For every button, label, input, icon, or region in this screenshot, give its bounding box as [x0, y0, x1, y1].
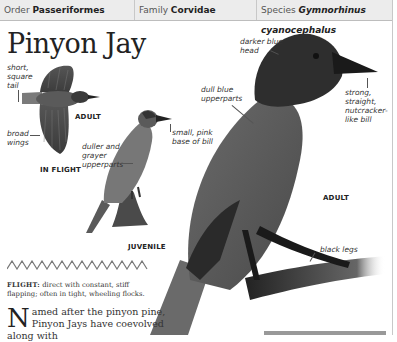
- family-label: Family: [139, 5, 168, 15]
- species-cell: Species Gymnorhinus cyanocephalus: [257, 0, 392, 20]
- order-value: Passeriformes: [32, 5, 104, 15]
- label-short-square-tail: short, square tail: [7, 63, 33, 90]
- label-broad-wings: broad wings: [7, 129, 29, 147]
- label-line: short,: [7, 63, 33, 72]
- label-line: upperparts: [201, 94, 242, 103]
- order-cell: Order Passeriformes: [0, 0, 135, 20]
- species-label: Species: [261, 5, 296, 15]
- label-line: straight,: [345, 97, 388, 106]
- label-line: like bill: [345, 115, 388, 124]
- label-line: upperparts: [82, 160, 123, 169]
- bird-adult-illustration: [150, 30, 385, 335]
- label-line: tail: [7, 81, 33, 90]
- label-duller-grayer-upperparts: duller and grayer upperparts: [82, 142, 123, 169]
- label-line: darker blue: [240, 37, 283, 46]
- label-line: broad: [7, 129, 29, 138]
- page-title: Pinyon Jay: [7, 28, 146, 59]
- sidebar-box-top-rule: [264, 331, 386, 335]
- flight-pattern-zigzag-icon: [7, 260, 149, 270]
- label-line: duller and: [82, 142, 123, 151]
- label-dull-blue-upperparts: dull blue upperparts: [201, 85, 242, 103]
- leader-line: [121, 163, 133, 164]
- label-line: square: [7, 72, 33, 81]
- label-line: strong,: [345, 88, 388, 97]
- caption-in-flight: IN FLIGHT: [40, 166, 81, 174]
- flight-label: FLIGHT:: [7, 281, 40, 289]
- page-right-rule: [392, 0, 393, 335]
- body-paragraph: Named after the pinyon pine, Pinyon Jays…: [7, 306, 167, 342]
- label-black-legs: black legs: [320, 245, 358, 254]
- leader-line: [18, 90, 19, 102]
- label-strong-straight-bill: strong, straight, nutcracker- like bill: [345, 88, 388, 124]
- label-line: nutcracker-: [345, 106, 388, 115]
- label-line: grayer: [82, 151, 123, 160]
- leader-line: [367, 78, 368, 88]
- caption-adult: ADULT: [323, 194, 349, 202]
- flight-description: FLIGHT: direct with constant, stiff flap…: [7, 281, 157, 299]
- family-cell: Family Corvidae: [135, 0, 257, 20]
- family-value: Corvidae: [171, 5, 216, 15]
- body-text: amed after the pinyon pine, Pinyon Jays …: [7, 306, 165, 341]
- taxonomy-header: Order Passeriformes Family Corvidae Spec…: [0, 0, 392, 21]
- leader-line: [30, 135, 40, 136]
- order-label: Order: [4, 5, 30, 15]
- label-line: dull blue: [201, 85, 242, 94]
- drop-cap: N: [7, 307, 30, 329]
- label-line: wings: [7, 138, 29, 147]
